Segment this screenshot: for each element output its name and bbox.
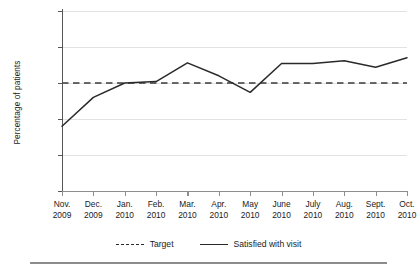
x-tick-mark [62, 191, 63, 196]
y-tick-mark [58, 47, 63, 48]
y-tick-mark [58, 11, 63, 12]
x-tick-mark [407, 191, 408, 196]
legend-item-satisfied: Satisfied with visit [200, 239, 302, 249]
legend-label-satisfied: Satisfied with visit [234, 239, 302, 249]
y-tick-mark [58, 119, 63, 120]
x-tick-mark [376, 191, 377, 196]
x-tick-mark [313, 191, 314, 196]
bottom-divider [30, 262, 387, 264]
dashed-line-icon [116, 240, 144, 249]
x-tick-mark [93, 191, 94, 196]
x-tick-mark [156, 191, 157, 196]
x-tick-mark [219, 191, 220, 196]
y-axis-title: Percentage of patients [13, 23, 22, 183]
chart-figure: Percentage of patients 7580859095100Nov.… [0, 0, 417, 269]
satisfied-with-visit-line [62, 58, 407, 126]
x-tick-label: Oct.2010 [384, 199, 417, 220]
chart-legend: Target Satisfied with visit [0, 239, 417, 249]
x-tick-mark [344, 191, 345, 196]
x-tick-mark [187, 191, 188, 196]
y-tick-mark [58, 155, 63, 156]
x-tick-mark [125, 191, 126, 196]
x-tick-mark [250, 191, 251, 196]
solid-line-icon [200, 240, 228, 249]
x-axis-line [62, 191, 408, 192]
legend-label-target: Target [150, 239, 174, 249]
legend-item-target: Target [116, 239, 174, 249]
y-tick-mark [58, 83, 63, 84]
series-line-layer [62, 11, 407, 191]
x-tick-mark [282, 191, 283, 196]
